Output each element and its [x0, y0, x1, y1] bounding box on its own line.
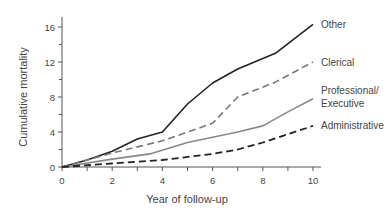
- x-tick-label: 4: [160, 175, 165, 186]
- x-tick-label: 6: [210, 175, 215, 186]
- x-axis-title: Year of follow-up: [146, 193, 228, 205]
- series-label: Administrative: [321, 120, 384, 131]
- y-tick-label: 12: [44, 57, 55, 68]
- y-tick-label: 16: [44, 22, 55, 33]
- x-tick-label: 0: [59, 175, 64, 186]
- x-axis: 0246810: [59, 167, 321, 186]
- y-axis-title: Cumulative mortality: [17, 47, 29, 147]
- series-label: Professional/: [321, 85, 379, 96]
- series-lines: [62, 24, 313, 167]
- x-tick-label: 2: [110, 175, 115, 186]
- series-label: Executive: [321, 98, 365, 109]
- y-axis: 0481216: [44, 17, 62, 173]
- y-tick-label: 8: [50, 92, 55, 103]
- y-tick-label: 4: [50, 127, 55, 138]
- series-line-other: [62, 24, 313, 167]
- series-label: Clerical: [321, 57, 354, 68]
- y-tick-label: 0: [50, 162, 55, 173]
- series-line-clerical: [62, 62, 313, 167]
- line-chart: 0481216 0246810 OtherClericalProfessiona…: [0, 0, 387, 222]
- series-label: Other: [321, 19, 347, 30]
- x-tick-label: 8: [260, 175, 265, 186]
- x-tick-label: 10: [308, 175, 319, 186]
- series-labels: OtherClericalProfessional/ExecutiveAdmin…: [321, 19, 384, 132]
